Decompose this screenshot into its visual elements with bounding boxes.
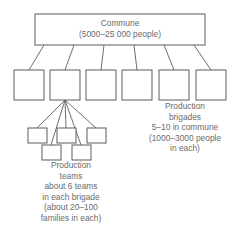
brigade-box-4 xyxy=(122,70,152,100)
connector-commune-brigade-5 xyxy=(164,45,174,70)
teams-caption-line-2: teams xyxy=(12,171,130,182)
brigades-caption-line-1: Production xyxy=(131,101,239,112)
brigades-caption-line-4: (1000–3000 people xyxy=(131,133,239,144)
teams-caption-line-6: families in each) xyxy=(12,213,130,224)
organization-hierarchy-diagram: Commune (5000–25 000 people) Production xyxy=(0,0,241,240)
brigades-caption-line-5: in each) xyxy=(131,143,239,154)
teams-caption-line-5: (about 20–100 xyxy=(12,202,130,213)
production-brigades-caption: Production brigades 5–10 in commune (100… xyxy=(131,101,239,154)
brigades-caption-line-2: brigades xyxy=(131,112,239,123)
teams-caption-line-4: in each brigade xyxy=(12,192,130,203)
brigade-box-3 xyxy=(86,70,116,100)
connector-brigade-team-2 xyxy=(65,100,66,128)
commune-title: Commune xyxy=(101,18,140,28)
team-box-4 xyxy=(42,145,61,160)
connector-commune-brigade-3 xyxy=(101,45,104,70)
connector-commune-brigade-4 xyxy=(134,45,137,70)
brigade-box-6 xyxy=(196,70,226,100)
teams-caption-line-3: about 6 teams xyxy=(12,181,130,192)
brigade-box-2 xyxy=(50,70,80,100)
brigades-caption-line-3: 5–10 in commune xyxy=(131,122,239,133)
team-box-3 xyxy=(87,128,106,143)
connector-commune-brigade-1 xyxy=(29,45,44,70)
connector-commune-brigade-2 xyxy=(65,45,74,70)
team-box-2 xyxy=(57,128,76,143)
connector-commune-brigade-6 xyxy=(194,45,211,70)
teams-caption-line-1: Production xyxy=(12,160,130,171)
team-box-5 xyxy=(72,145,91,160)
production-teams-caption: Production teams about 6 teams in each b… xyxy=(12,160,130,224)
commune-subtitle: (5000–25 000 people) xyxy=(79,29,161,39)
brigade-box-5 xyxy=(159,70,189,100)
team-box-1 xyxy=(28,128,47,143)
brigade-box-1 xyxy=(14,70,44,100)
